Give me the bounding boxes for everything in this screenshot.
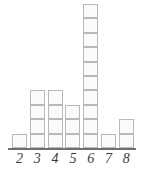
block-unit (65, 105, 80, 119)
block-column (11, 134, 28, 148)
block-unit (30, 134, 45, 148)
block-unit (101, 134, 116, 148)
x-axis-tick-label: 7 (100, 150, 117, 168)
block-unit (30, 105, 45, 119)
block-unit (119, 134, 134, 148)
block-unit (83, 62, 98, 76)
block-unit (48, 90, 63, 104)
block-column (100, 134, 117, 148)
plot-area (0, 0, 145, 148)
block-column (64, 105, 81, 148)
block-unit (83, 33, 98, 47)
x-axis-tick-label: 5 (64, 150, 81, 168)
block-unit (83, 47, 98, 61)
block-unit (30, 119, 45, 133)
block-unit (65, 134, 80, 148)
block-unit (48, 105, 63, 119)
block-unit (83, 76, 98, 90)
block-unit (119, 119, 134, 133)
x-axis-tick-label: 4 (47, 150, 64, 168)
block-column (82, 4, 99, 148)
block-unit (12, 134, 27, 148)
block-unit (83, 90, 98, 104)
x-axis-tick-label: 3 (29, 150, 46, 168)
block-unit (83, 4, 98, 18)
block-unit (30, 90, 45, 104)
block-plot-figure: 2345678 (0, 0, 145, 169)
block-column (29, 90, 46, 148)
x-axis-tick-label: 8 (118, 150, 135, 168)
block-unit (83, 134, 98, 148)
block-column (47, 90, 64, 148)
block-unit (48, 119, 63, 133)
block-unit (83, 119, 98, 133)
x-axis-tick-label: 6 (82, 150, 99, 168)
block-unit (48, 134, 63, 148)
block-unit (65, 119, 80, 133)
block-unit (83, 105, 98, 119)
block-unit (83, 18, 98, 32)
x-axis-tick-label: 2 (11, 150, 28, 168)
x-axis-tick-labels: 2345678 (0, 150, 145, 169)
block-column (118, 119, 135, 148)
